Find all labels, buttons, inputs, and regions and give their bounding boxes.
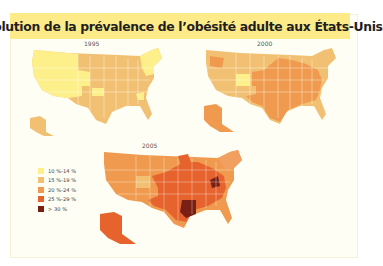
legend-label: 25 %-29 % [48, 196, 76, 202]
legend-label: > 30 % [48, 206, 67, 212]
swatch-10-14 [38, 168, 44, 174]
swatch-30-plus [38, 206, 44, 212]
legend: 10 %-14 % 15 %-19 % 20 %-24 % 25 %-29 % … [38, 166, 76, 214]
map-2005 [98, 148, 258, 248]
swatch-25-29 [38, 196, 44, 202]
page-title: Évolution de la prévalence de l’obésité … [0, 19, 383, 34]
legend-label: 20 %-24 % [48, 187, 76, 193]
legend-label: 10 %-14 % [48, 168, 76, 174]
swatch-15-19 [38, 177, 44, 183]
legend-item-15-19: 15 %-19 % [38, 176, 76, 186]
legend-item-20-24: 20 %-24 % [38, 185, 76, 195]
legend-item-30-plus: > 30 % [38, 204, 76, 214]
map-1995 [28, 46, 173, 136]
title-bar: Évolution de la prévalence de l’obésité … [10, 13, 350, 39]
legend-label: 15 %-19 % [48, 177, 76, 183]
legend-item-10-14: 10 %-14 % [38, 166, 76, 176]
map-2000 [200, 46, 350, 136]
legend-item-25-29: 25 %-29 % [38, 195, 76, 205]
swatch-20-24 [38, 187, 44, 193]
